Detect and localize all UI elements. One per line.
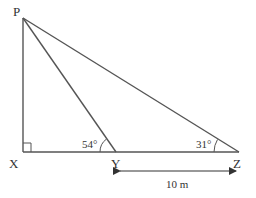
angle-label-Z: 31° (196, 138, 211, 150)
angle-label-Y: 54° (82, 138, 97, 150)
label-P: P (13, 4, 20, 19)
measure-label: 10 m (166, 178, 189, 190)
angle-arc-Y (100, 139, 107, 152)
line-PZ (23, 18, 239, 152)
label-Y: Y (111, 156, 121, 171)
line-PY (23, 18, 116, 152)
label-X: X (9, 156, 19, 171)
label-Z: Z (233, 156, 241, 171)
angle-arc-Z (214, 140, 218, 153)
triangle-diagram: P X Y Z 54° 31° 10 m (0, 0, 256, 198)
right-angle-marker (23, 143, 31, 152)
